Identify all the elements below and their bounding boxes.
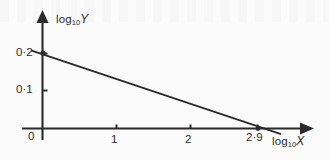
origin-label: 0	[28, 130, 34, 142]
y-tick-label-02: 0·2	[16, 46, 33, 58]
x-tick-label-29: 2·9	[246, 131, 263, 143]
y-axis	[37, 10, 49, 140]
x-axis-label: log10X	[272, 134, 304, 148]
y-axis-arrowhead	[37, 10, 49, 23]
data-line	[31, 50, 281, 134]
x-axis-label-variable: X	[296, 134, 304, 148]
x-tick-label-2: 2	[185, 133, 191, 145]
y-tick-label-01: 0·1	[16, 83, 33, 95]
y-axis-label-variable: Y	[80, 12, 88, 26]
x-axis-label-base: log	[272, 135, 288, 147]
x-axis	[22, 123, 314, 135]
y-axis-label-subscript: 10	[72, 18, 81, 27]
x-axis-arrowhead	[300, 123, 314, 135]
data-point-y-intercept	[40, 50, 45, 55]
y-axis-label-base: log	[56, 13, 72, 25]
x-axis-label-subscript: 10	[288, 140, 297, 149]
x-tick-label-1: 1	[111, 133, 117, 145]
log-log-plot-figure: log10Y log10X 0·2 0·1 0 1 2 2·9	[0, 0, 329, 160]
y-axis-label: log10Y	[56, 12, 88, 26]
